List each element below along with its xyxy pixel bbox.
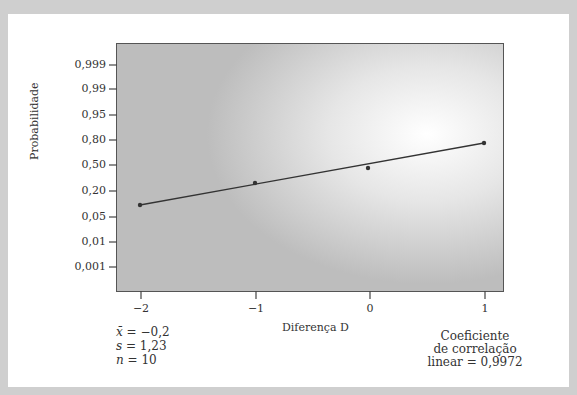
correlation-annotation: Coeficiente de correlação linear = 0,997… (420, 330, 530, 369)
stat-sd: s = 1,23 (116, 339, 170, 353)
corr-line-3: linear = 0,9972 (420, 356, 530, 369)
y-tick-label: 0,05 (56, 210, 106, 223)
data-point (366, 166, 370, 170)
y-tick-label: 0,99 (56, 82, 106, 95)
y-tick-label: 0,001 (56, 260, 106, 273)
data-point (138, 203, 142, 207)
sd-value: = 1,23 (122, 339, 166, 353)
fit-line (140, 143, 484, 205)
x-tick-label: −1 (241, 302, 271, 315)
x-tick-label: 0 (355, 302, 385, 315)
n-value: = 10 (124, 353, 157, 367)
mean-symbol: x̄ (116, 325, 123, 339)
y-tick-label: 0,80 (56, 133, 106, 146)
mean-value: = −0,2 (123, 325, 170, 339)
y-tick-label: 0,01 (56, 235, 106, 248)
y-tick-label: 0,95 (56, 108, 106, 121)
n-symbol: n (116, 353, 124, 367)
y-tick-label: 0,999 (56, 58, 106, 71)
y-tick-label: 0,50 (56, 158, 106, 171)
x-ticks (141, 291, 485, 299)
summary-stats: x̄ = −0,2 s = 1,23 n = 10 (116, 325, 170, 367)
stat-n: n = 10 (116, 353, 170, 367)
data-point (482, 141, 486, 145)
x-tick-label: 1 (470, 302, 500, 315)
x-tick-label: −2 (126, 302, 156, 315)
y-tick-label: 0,20 (56, 184, 106, 197)
x-axis-title: Diferença D (282, 321, 349, 334)
y-axis-title: Probabilidade (28, 82, 41, 160)
data-point (253, 181, 257, 185)
y-ticks (109, 65, 117, 267)
stat-mean: x̄ = −0,2 (116, 325, 170, 339)
